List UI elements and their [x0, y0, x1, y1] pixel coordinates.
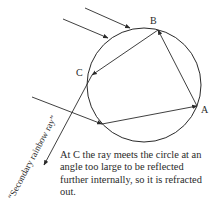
- point-label-C: C: [76, 67, 83, 78]
- point-label-B: B: [150, 15, 157, 26]
- internal-ray-B-to-C: [92, 30, 158, 75]
- incoming-ray-3: [32, 97, 102, 124]
- explanation-caption: At C the ray meets the circle at an angl…: [60, 149, 210, 198]
- internal-ray-to-A: [102, 106, 197, 124]
- internal-ray-A-to-B: [158, 30, 197, 106]
- secondary-rainbow-ray-label: “Secondary rainbow ray”: [6, 114, 59, 201]
- raindrop-circle: [87, 28, 201, 142]
- point-label-A: A: [201, 104, 209, 115]
- incoming-ray-2: [63, 19, 108, 38]
- incoming-ray-1: [85, 8, 130, 28]
